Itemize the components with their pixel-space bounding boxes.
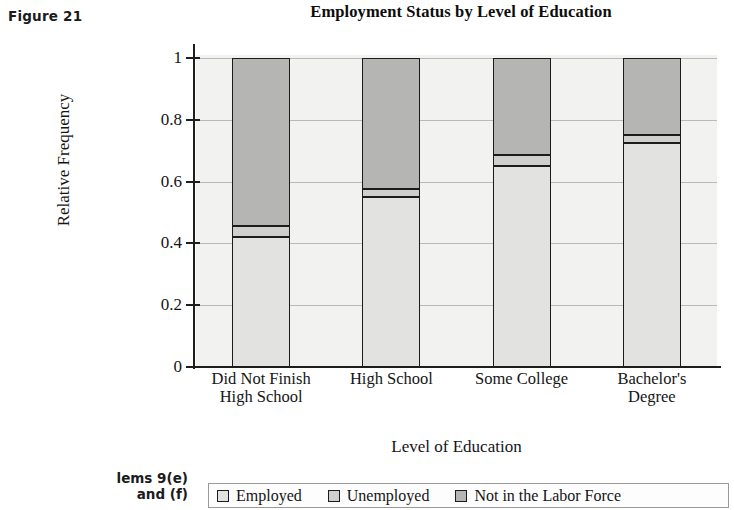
y-axis-tick-label: 0.8	[142, 111, 182, 128]
chart-legend: EmployedUnemployedNot in the Labor Force	[208, 483, 729, 508]
y-axis-tick	[186, 181, 200, 183]
x-axis-category-label: Bachelor'sDegree	[578, 370, 726, 406]
y-axis-tick	[186, 119, 200, 121]
x-axis-category-label: Some College	[448, 370, 596, 388]
bar-segment	[362, 58, 420, 189]
y-axis-tick	[186, 57, 200, 59]
y-axis-line	[193, 44, 195, 369]
x-axis-category-label-line: Some College	[448, 370, 596, 388]
x-axis-category-label-line: High School	[317, 370, 465, 388]
x-axis-category-label-line: High School	[187, 388, 335, 406]
bar-segment	[232, 237, 290, 367]
y-axis-tick-label: 1	[142, 49, 182, 66]
y-axis-tick-label: 0.6	[142, 173, 182, 190]
x-axis-category-label-line: Did Not Finish	[187, 370, 335, 388]
legend-item[interactable]: Not in the Labor Force	[455, 488, 621, 504]
y-axis-tick-label: 0.4	[142, 234, 182, 251]
bar-segment	[493, 155, 551, 166]
y-axis-tick	[186, 366, 200, 368]
y-axis-tick-label: 0	[142, 358, 182, 375]
y-axis-tick	[186, 242, 200, 244]
bar-segment	[623, 135, 681, 143]
legend-label: Unemployed	[347, 488, 430, 504]
legend-item[interactable]: Employed	[217, 488, 302, 504]
figure-page: Figure 21 lems 9(e) and (f) Employment S…	[0, 0, 734, 510]
bar-segment	[362, 189, 420, 197]
chart-canvas: 00.20.40.60.81 Relative Frequency Did No…	[0, 0, 734, 510]
bar-segment	[232, 58, 290, 226]
bar-segment	[362, 197, 420, 367]
legend-swatch-icon	[455, 490, 467, 502]
y-axis-title: Relative Frequency	[54, 50, 74, 270]
bar-segment	[623, 58, 681, 135]
legend-swatch-icon	[328, 490, 340, 502]
legend-label: Employed	[236, 488, 302, 504]
x-axis-category-label: High School	[317, 370, 465, 388]
y-axis-tick-label: 0.2	[142, 296, 182, 313]
x-axis-title: Level of Education	[196, 437, 717, 457]
bar-segment	[493, 166, 551, 367]
legend-item[interactable]: Unemployed	[328, 488, 430, 504]
y-axis-tick	[186, 304, 200, 306]
bar-segment	[493, 58, 551, 155]
bar-segment	[232, 226, 290, 237]
x-axis-category-label-line: Degree	[578, 388, 726, 406]
bar-segment	[623, 143, 681, 367]
legend-swatch-icon	[217, 490, 229, 502]
legend-label: Not in the Labor Force	[474, 488, 621, 504]
x-axis-category-label-line: Bachelor's	[578, 370, 726, 388]
x-axis-category-label: Did Not FinishHigh School	[187, 370, 335, 406]
